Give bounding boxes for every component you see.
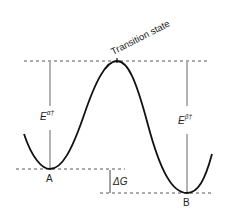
e-beta-label: Eβ†	[178, 113, 192, 126]
state-a-label: A	[46, 173, 53, 184]
e-beta-superscript: β†	[184, 113, 193, 121]
energy-diagram: Transition state Eα† Eβ† A B ΔG	[0, 0, 226, 216]
transition-state-label: Transition state	[109, 18, 172, 57]
state-b-label: B	[183, 197, 190, 208]
e-alpha-superscript: α†	[47, 109, 55, 116]
delta-g-label: ΔG	[112, 176, 128, 187]
e-alpha-label: Eα†	[40, 109, 54, 122]
